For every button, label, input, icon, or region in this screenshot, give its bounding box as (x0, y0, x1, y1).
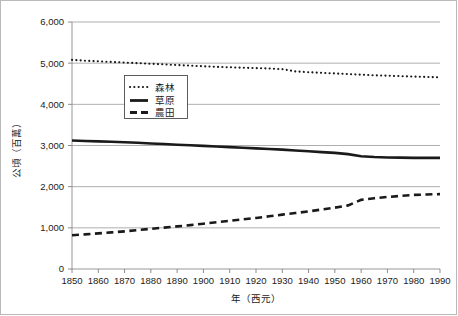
x-tick-label: 1980 (403, 275, 424, 286)
legend: 森林 草原 農田 (125, 76, 188, 119)
x-tick-label: 1940 (298, 275, 319, 286)
x-axis: 1850186018701880189019001910192019301940… (61, 269, 450, 286)
x-tick-label: 1920 (245, 275, 266, 286)
legend-label-grassland: 草原 (155, 95, 175, 106)
x-axis-title: 年（西元） (231, 293, 281, 304)
y-tick-label: 0 (59, 263, 64, 274)
x-tick-label: 1970 (377, 275, 398, 286)
x-tick-label: 1900 (193, 275, 214, 286)
x-tick-label: 1950 (324, 275, 345, 286)
y-tick-label: 3,000 (40, 140, 64, 151)
x-tick-label: 1870 (114, 275, 135, 286)
y-tick-label: 1,000 (40, 222, 64, 233)
y-tick-label: 4,000 (40, 99, 64, 110)
chart-canvas: 01,0002,0003,0004,0005,0006,000 18501860… (0, 0, 458, 316)
x-tick-label: 1860 (88, 275, 109, 286)
y-axis-title: 公頃（百萬） (11, 118, 22, 178)
y-tick-label: 5,000 (40, 58, 64, 69)
y-tick-label: 2,000 (40, 181, 64, 192)
x-tick-label: 1960 (351, 275, 372, 286)
x-tick-label: 1910 (219, 275, 240, 286)
x-tick-label: 1850 (61, 275, 82, 286)
y-tick-label: 6,000 (40, 16, 64, 27)
x-tick-label: 1930 (272, 275, 293, 286)
line-chart: 01,0002,0003,0004,0005,0006,000 18501860… (0, 0, 458, 316)
x-tick-label: 1890 (167, 275, 188, 286)
x-tick-label: 1990 (429, 275, 450, 286)
legend-label-farmland: 農田 (155, 107, 175, 118)
legend-label-forest: 森林 (155, 82, 175, 93)
x-tick-label: 1880 (140, 275, 161, 286)
